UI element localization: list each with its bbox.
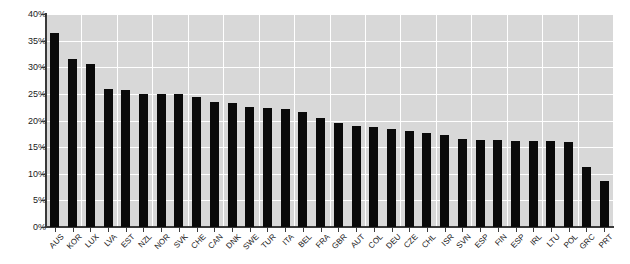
bar xyxy=(316,118,325,227)
x-axis-tick-mark xyxy=(250,228,251,232)
x-axis-tick-mark xyxy=(321,228,322,232)
x-axis-tick-mark xyxy=(498,228,499,232)
bar xyxy=(139,94,148,227)
x-axis-tick-mark xyxy=(356,228,357,232)
bar xyxy=(511,141,520,227)
x-axis-ticks: AUSKORLUXLVAESTNZLNORSVKCHECANDNKSWETURI… xyxy=(46,228,613,264)
bar xyxy=(157,94,166,227)
x-axis-tick-mark xyxy=(285,228,286,232)
bar xyxy=(369,127,378,227)
bar xyxy=(582,167,591,227)
bar-chart: 0%5%10%15%20%25%30%35%40% AUSKORLUXLVAES… xyxy=(0,0,630,264)
bar xyxy=(387,129,396,227)
bar xyxy=(476,140,485,227)
bar xyxy=(263,108,272,227)
x-axis-tick-mark xyxy=(126,228,127,232)
x-axis-tick-mark xyxy=(392,228,393,232)
x-axis-tick-mark xyxy=(480,228,481,232)
x-axis-tick-mark xyxy=(427,228,428,232)
x-axis-tick-mark xyxy=(197,228,198,232)
x-axis-tick-mark xyxy=(303,228,304,232)
x-axis-tick-mark xyxy=(462,228,463,232)
bar xyxy=(174,94,183,227)
bar xyxy=(298,112,307,227)
bar xyxy=(422,133,431,227)
x-axis-tick-mark xyxy=(267,228,268,232)
x-axis-tick-mark xyxy=(445,228,446,232)
bar xyxy=(50,33,59,227)
bar xyxy=(104,89,113,227)
x-axis-tick-mark xyxy=(214,228,215,232)
bar xyxy=(600,181,609,227)
bar xyxy=(192,97,201,227)
bar xyxy=(334,123,343,227)
x-axis-tick-mark xyxy=(533,228,534,232)
bar xyxy=(546,141,555,227)
x-axis-tick-mark xyxy=(409,228,410,232)
x-axis-tick-mark xyxy=(108,228,109,232)
bar xyxy=(458,139,467,227)
bar xyxy=(440,135,449,227)
bar xyxy=(228,103,237,227)
x-axis-tick-mark xyxy=(179,228,180,232)
x-axis-tick-mark xyxy=(516,228,517,232)
bar xyxy=(245,107,254,227)
x-axis-tick-mark xyxy=(586,228,587,232)
bar xyxy=(68,59,77,227)
x-axis-tick-mark xyxy=(374,228,375,232)
x-axis-tick-mark xyxy=(232,228,233,232)
x-axis-tick-mark xyxy=(73,228,74,232)
x-axis-tick-mark xyxy=(90,228,91,232)
x-axis-tick-mark xyxy=(143,228,144,232)
x-axis-tick-mark xyxy=(55,228,56,232)
x-axis-tick-mark xyxy=(569,228,570,232)
bar xyxy=(564,142,573,227)
x-axis-tick-mark xyxy=(551,228,552,232)
bar xyxy=(529,141,538,227)
bar xyxy=(493,140,502,227)
bar xyxy=(121,90,130,227)
y-axis-ticks: 0%5%10%15%20%25%30%35%40% xyxy=(0,0,46,264)
bar xyxy=(405,131,414,227)
bar xyxy=(86,64,95,227)
bar xyxy=(210,102,219,227)
bar xyxy=(352,126,361,227)
x-axis-tick-mark xyxy=(161,228,162,232)
bar xyxy=(281,109,290,227)
x-axis-tick-mark xyxy=(604,228,605,232)
x-axis-tick-mark xyxy=(338,228,339,232)
bars-layer xyxy=(46,14,613,227)
